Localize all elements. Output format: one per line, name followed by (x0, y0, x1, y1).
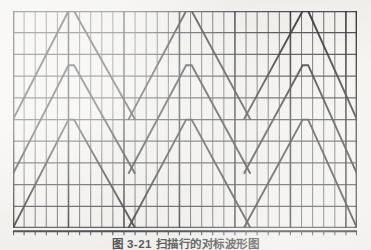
figure-root: 图 3-21 扫描行的对标波形图 (0, 0, 371, 250)
waveform-plot (13, 11, 357, 228)
waveform-trace (244, 11, 357, 120)
bottom-axis (13, 226, 357, 236)
figure-caption: 图 3-21 扫描行的对标波形图 (0, 238, 371, 250)
plot-area (13, 11, 357, 228)
axis-ticks (13, 231, 357, 235)
waveform-trace (128, 120, 250, 228)
waveform-trace (13, 120, 135, 228)
figure-caption-text: 图 3-21 扫描行的对标波形图 (0, 238, 371, 250)
